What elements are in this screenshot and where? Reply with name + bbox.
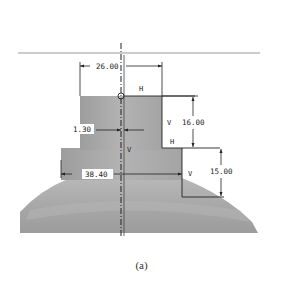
dim-offset[interactable]: 1.30 bbox=[73, 125, 92, 134]
figure-caption: (a) bbox=[0, 259, 283, 271]
dim-top-width[interactable]: 26.00 bbox=[96, 62, 119, 71]
dim-lower-height[interactable]: 15.00 bbox=[210, 167, 233, 176]
dim-lower-width[interactable]: 38.40 bbox=[85, 170, 108, 179]
constraint-v-right-upper: V bbox=[167, 119, 172, 127]
constraint-h-step: H bbox=[170, 138, 174, 146]
dim-upper-height[interactable]: 16.00 bbox=[182, 118, 205, 127]
sketch-drawing: 26.00 H 16.00 V H 1.30 V 38.40 V 15.00 bbox=[0, 0, 283, 291]
constraint-v-right-lower: V bbox=[188, 170, 193, 178]
constraint-h-top: H bbox=[139, 85, 143, 93]
